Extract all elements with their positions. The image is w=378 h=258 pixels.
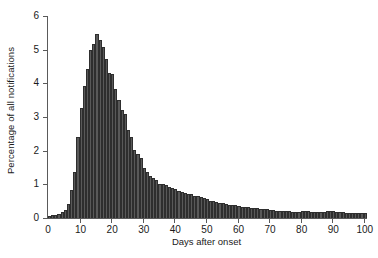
x-axis-tick: 20 — [111, 218, 112, 223]
y-axis-tick: 4 — [43, 83, 48, 84]
x-axis-tick-label: 20 — [107, 224, 118, 235]
y-axis-title-text: Percentage of all notifications — [6, 46, 17, 173]
x-axis-tick-label: 30 — [138, 224, 149, 235]
x-axis-tick-label: 50 — [201, 224, 212, 235]
x-axis-tick-label: 80 — [296, 224, 307, 235]
x-axis-tick-label: 60 — [233, 224, 244, 235]
y-axis-tick: 3 — [43, 117, 48, 118]
x-axis-tick: 90 — [332, 218, 333, 223]
chart-figure: Percentage of all notifications 0123456 … — [0, 0, 378, 258]
y-axis-title: Percentage of all notifications — [0, 0, 22, 220]
x-axis-tick-label: 90 — [328, 224, 339, 235]
y-axis-tick: 2 — [43, 151, 48, 152]
x-axis-tick-label: 10 — [75, 224, 86, 235]
x-axis-title: Days after onset — [47, 236, 366, 247]
x-axis-origin-label: 0 — [45, 224, 51, 235]
x-axis-tick: 70 — [269, 218, 270, 223]
x-axis-tick: 80 — [301, 218, 302, 223]
x-axis-tick: 40 — [174, 218, 175, 223]
y-axis-tick: 5 — [43, 50, 48, 51]
x-axis-tick: 30 — [143, 218, 144, 223]
y-axis-tick-label: 6 — [33, 10, 39, 21]
y-axis-tick-label: 5 — [33, 44, 39, 55]
y-axis-tick-label: 1 — [33, 178, 39, 189]
y-axis-tick-label: 4 — [33, 77, 39, 88]
y-axis-tick-label: 2 — [33, 145, 39, 156]
y-axis-tick-label: 3 — [33, 111, 39, 122]
x-axis-tick-label: 40 — [170, 224, 181, 235]
y-axis-tick: 0 — [43, 218, 48, 219]
x-axis-tick-label: 100 — [356, 224, 373, 235]
plot-area: 0123456 0102030405060708090100 — [47, 16, 367, 219]
y-axis-tick: 1 — [43, 184, 48, 185]
x-axis-tick: 50 — [206, 218, 207, 223]
y-axis-tick: 6 — [43, 16, 48, 17]
histogram-bars — [48, 16, 367, 218]
y-axis-tick-label: 0 — [33, 212, 39, 223]
x-axis-tick: 100 — [364, 218, 365, 223]
x-axis-tick-label: 70 — [265, 224, 276, 235]
x-axis-tick: 10 — [80, 218, 81, 223]
x-axis-tick: 60 — [238, 218, 239, 223]
